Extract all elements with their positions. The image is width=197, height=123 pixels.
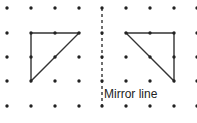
mirror-diagram: Mirror line	[0, 0, 197, 123]
grid-dot	[195, 104, 197, 107]
grid-dot	[77, 31, 80, 34]
grid-dot	[100, 31, 103, 34]
grid-dot	[100, 6, 103, 9]
grid-dot	[195, 79, 197, 82]
dot-grid-canvas	[0, 0, 197, 123]
grid-dot	[5, 104, 8, 107]
grid-dot	[5, 6, 8, 9]
grid-dot	[5, 55, 8, 58]
grid-dot	[124, 55, 127, 58]
grid-dot	[124, 6, 127, 9]
grid-dot	[124, 79, 127, 82]
grid-dot	[124, 104, 127, 107]
grid-dot	[29, 31, 32, 34]
grid-dot	[29, 104, 32, 107]
grid-dot	[29, 79, 32, 82]
grid-dot	[148, 79, 151, 82]
grid-dot	[29, 55, 32, 58]
grid-dot	[124, 31, 127, 34]
grid-dot	[29, 6, 32, 9]
grid-dot	[195, 55, 197, 58]
grid-dot	[53, 31, 56, 34]
grid-dot	[172, 104, 175, 107]
grid-dot	[148, 55, 151, 58]
grid-dot	[100, 104, 103, 107]
grid-dot	[172, 55, 175, 58]
grid-dot	[172, 31, 175, 34]
grid-dot	[53, 6, 56, 9]
grid-dot	[53, 79, 56, 82]
grid-dot	[77, 6, 80, 9]
grid-dot	[100, 79, 103, 82]
grid-dot	[172, 79, 175, 82]
grid-dot	[53, 104, 56, 107]
grid-dot	[77, 55, 80, 58]
grid-dot	[148, 31, 151, 34]
grid-dot	[172, 6, 175, 9]
grid-dot	[77, 79, 80, 82]
grid-dot	[100, 55, 103, 58]
grid-dot	[148, 6, 151, 9]
grid-dot	[195, 6, 197, 9]
grid-dot	[5, 31, 8, 34]
grid-dot	[148, 104, 151, 107]
grid-dot	[53, 55, 56, 58]
grid-dot	[77, 104, 80, 107]
grid-dot	[5, 79, 8, 82]
grid-dot	[195, 31, 197, 34]
mirror-line-label: Mirror line	[104, 88, 157, 100]
